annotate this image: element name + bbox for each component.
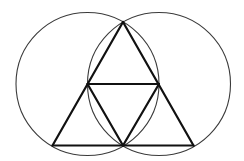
segment-mid-left-to-bottom-center [88, 84, 124, 146]
triangle-segments-group [53, 22, 194, 146]
segment-mid-right-to-bottom-center [123, 84, 159, 146]
geometry-diagram [0, 0, 244, 161]
